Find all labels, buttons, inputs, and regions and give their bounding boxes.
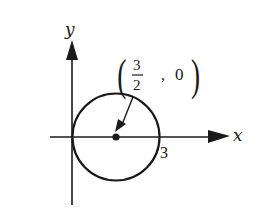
- center-label: ( 3 2 , 0 ): [117, 50, 200, 99]
- y-value: 0: [175, 65, 184, 84]
- fraction-denominator: 2: [133, 77, 141, 93]
- x-axis: [50, 130, 230, 143]
- y-axis: [66, 40, 78, 205]
- y-axis-label: y: [64, 19, 75, 39]
- center-point: [112, 133, 119, 140]
- fraction-numerator: 3: [133, 57, 141, 73]
- x-axis-arrow-icon: [208, 130, 230, 143]
- close-paren: ): [191, 50, 200, 99]
- pointer-arrowhead-icon: [115, 119, 126, 132]
- intercept-label: 3: [160, 144, 168, 161]
- pointer-arrow: [115, 97, 133, 132]
- open-paren: (: [117, 50, 126, 99]
- coordinate-diagram: y x 3 ( 3 2 , 0 ): [0, 0, 260, 214]
- x-axis-label: x: [233, 125, 243, 145]
- y-axis-arrow-icon: [66, 40, 78, 60]
- comma: ,: [161, 66, 165, 83]
